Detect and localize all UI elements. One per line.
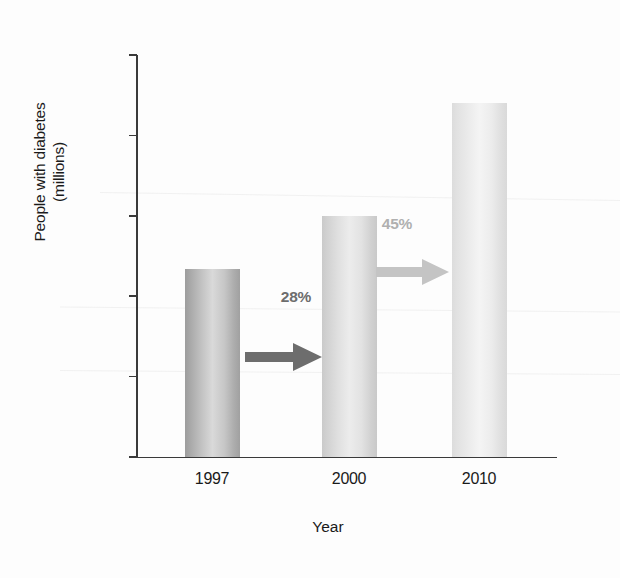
plot-area bbox=[136, 55, 555, 457]
bar-2000 bbox=[322, 216, 377, 457]
diabetes-bar-chart: People with diabetes (millions) 250 200 … bbox=[0, 0, 620, 578]
right-arrow-icon bbox=[374, 256, 452, 288]
y-axis-title: People with diabetes (millions) bbox=[30, 42, 74, 302]
x-tick-label-2000: 2000 bbox=[289, 470, 409, 488]
annotation-45-percent-arrow bbox=[374, 256, 452, 292]
annotation-28-percent-label: 28% bbox=[251, 288, 341, 306]
x-tick-label-2010: 2010 bbox=[419, 470, 539, 488]
x-tick-label-1997: 1997 bbox=[152, 470, 272, 488]
annotation-28-percent-arrow bbox=[243, 340, 325, 378]
bar-1997 bbox=[185, 269, 240, 457]
x-axis-title-text: Year bbox=[312, 518, 343, 536]
y-axis-title-line-2: (millions) bbox=[49, 42, 68, 302]
y-axis-title-line-1: People with diabetes bbox=[30, 42, 49, 302]
bar-2010 bbox=[452, 103, 507, 457]
right-arrow-icon bbox=[243, 340, 325, 374]
x-axis-title: Year bbox=[0, 518, 620, 536]
annotation-45-percent-label: 45% bbox=[352, 215, 442, 233]
